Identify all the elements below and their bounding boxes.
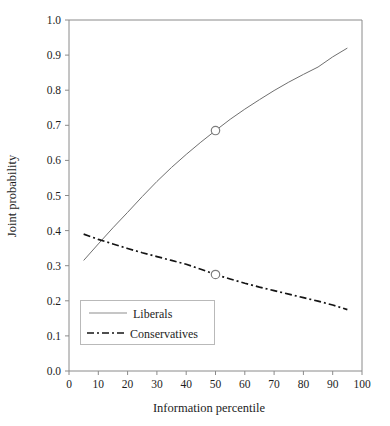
y-tick-label: 0.3	[47, 260, 62, 272]
x-tick-label: 100	[353, 378, 371, 390]
y-tick-label: 0.0	[47, 365, 62, 377]
y-tick-label: 0.1	[47, 330, 62, 342]
series-group	[84, 48, 348, 309]
x-tick-label: 80	[298, 378, 310, 390]
y-tick-label: 1.0	[47, 14, 62, 26]
x-tick-label: 40	[180, 378, 192, 390]
x-axis-title: Information percentile	[153, 401, 266, 415]
y-tick-label: 0.7	[47, 119, 62, 131]
joint-probability-line-chart: 0.00.10.20.30.40.50.60.70.80.91.0 010203…	[0, 0, 390, 426]
x-tick-label: 0	[66, 378, 72, 390]
x-tick-label: 10	[93, 378, 105, 390]
series-line-liberals	[84, 48, 348, 260]
y-tick-label: 0.4	[47, 225, 62, 237]
x-axis-ticks: 0102030405060708090100	[66, 371, 371, 390]
x-tick-label: 30	[151, 378, 163, 390]
y-axis-title: Joint probability	[5, 154, 19, 237]
x-tick-label: 60	[239, 378, 251, 390]
chart-container: 0.00.10.20.30.40.50.60.70.80.91.0 010203…	[0, 0, 390, 426]
chart-legend: Liberals Conservatives	[81, 301, 215, 345]
y-tick-label: 0.9	[47, 49, 62, 61]
legend-label-conservatives: Conservatives	[130, 327, 198, 341]
x-tick-label: 20	[122, 378, 134, 390]
y-tick-label: 0.6	[47, 154, 62, 166]
x-tick-label: 90	[327, 378, 339, 390]
y-tick-label: 0.2	[47, 295, 62, 307]
legend-label-liberals: Liberals	[133, 307, 173, 321]
x-tick-label: 70	[268, 378, 280, 390]
y-axis-ticks: 0.00.10.20.30.40.50.60.70.80.91.0	[47, 14, 69, 377]
y-tick-label: 0.5	[47, 190, 62, 202]
data-point-marker-liberals	[211, 126, 219, 134]
data-point-marker-conservatives	[211, 270, 219, 278]
x-tick-label: 50	[210, 378, 222, 390]
y-tick-label: 0.8	[47, 84, 62, 96]
